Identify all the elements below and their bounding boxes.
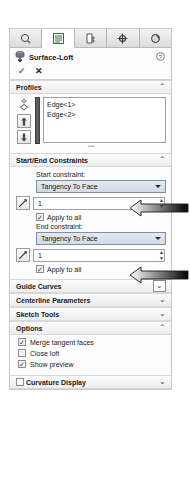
chevron-up-icon[interactable]: ⌃ [159,83,166,91]
start-tangent-direction-button[interactable] [16,196,30,210]
start-magnitude-stepper[interactable]: ▲ ▼ [157,197,166,209]
list-item[interactable]: Edge<1> [47,100,162,110]
section-header-sketch-tools[interactable]: Sketch Tools ⌄ [10,307,171,321]
tangent-direction-icon [18,250,28,260]
selection-indicator-bar [35,97,40,144]
manager-tab-strip [10,29,171,48]
start-apply-to-all-label: Apply to all [47,214,81,221]
section-title-start-end-constraints: Start/End Constraints [16,157,159,164]
option-row-merge-tangent-faces[interactable]: ✓ Merge tangent faces [18,338,166,346]
section-title-sketch-tools: Sketch Tools [16,311,159,318]
chevron-down-icon[interactable] [155,185,161,188]
show-preview-checkbox[interactable]: ✓ [18,360,26,368]
merge-tangent-faces-label: Merge tangent faces [30,339,94,346]
property-list-icon [53,33,64,44]
show-preview-label: Show preview [30,361,74,368]
profile-select-icon[interactable] [17,97,31,112]
chevron-up-icon[interactable]: ⌃ [159,324,166,332]
start-constraint-dropdown[interactable]: Tangency To Face [36,180,166,193]
page-title: Surface-Loft [29,53,156,62]
panel-action-row: ✓ ✕ [10,64,171,80]
end-magnitude-stepper[interactable]: ▲ ▼ [157,249,166,261]
display-manager-tab[interactable] [140,29,171,47]
chevron-down-icon[interactable]: ⌄ [159,310,166,318]
move-up-button[interactable] [17,114,31,128]
section-header-start-end-constraints[interactable]: Start/End Constraints ⌃ [10,153,171,167]
section-title-profiles: Profiles [16,84,159,91]
end-apply-to-all-label: Apply to all [47,266,81,273]
cancel-button[interactable]: ✕ [35,67,43,76]
configuration-manager-tab[interactable] [75,29,107,47]
section-title-options: Options [16,325,159,332]
tree-rollback-icon [20,33,31,44]
section-header-centerline-parameters[interactable]: Centerline Parameters ⌄ [10,293,171,307]
profile-tools [16,97,32,144]
section-header-profiles[interactable]: Profiles ⌃ [10,80,171,94]
chevron-down-icon[interactable]: ⌄ [159,378,166,386]
end-constraint-dropdown[interactable]: Tangency To Face [36,232,166,245]
display-sphere-icon [150,33,161,44]
arrow-down-icon [20,133,28,142]
arrow-up-icon [20,117,28,126]
merge-tangent-faces-checkbox[interactable]: ✓ [18,338,26,346]
feature-manager-tree-tab[interactable] [10,29,42,47]
surface-loft-icon [15,51,25,63]
accept-button[interactable]: ✓ [18,67,26,76]
dimxpert-manager-tab[interactable] [107,29,139,47]
stepper-down-icon[interactable]: ▼ [157,203,166,209]
section-title-curvature-display: Curvature Display [26,379,159,386]
end-constraint-value: Tangency To Face [41,235,155,242]
section-header-options[interactable]: Options ⌃ [10,321,171,335]
section-body-start-end-constraints: Start constraint: Tangency To Face 1 ▲ ▼… [10,167,171,279]
tangent-direction-icon [18,198,28,208]
stepper-down-icon[interactable]: ▼ [157,255,166,261]
curvature-display-checkbox[interactable] [16,378,24,386]
dimxpert-crosshair-icon [117,33,128,44]
end-constraint-label: End constraint: [36,223,166,230]
panel-title-row: Surface-Loft ? [10,48,171,64]
start-apply-to-all-checkbox[interactable]: ✓ [36,213,44,221]
end-tangent-direction-button[interactable] [16,248,30,262]
svg-text:?: ? [159,54,163,60]
end-apply-to-all-checkbox[interactable]: ✓ [36,265,44,273]
move-down-button[interactable] [17,130,31,144]
chevron-down-icon[interactable] [155,237,161,240]
end-constraint-callout-arrow [128,265,188,285]
list-item[interactable]: Edge<2> [47,110,162,120]
help-icon[interactable]: ? [156,52,165,62]
option-row-show-preview[interactable]: ✓ Show preview [18,360,166,368]
option-row-close-loft[interactable]: Close loft [18,349,166,357]
section-body-options: ✓ Merge tangent faces Close loft ✓ Show … [10,335,171,375]
property-manager-tab[interactable] [42,29,74,48]
chevron-down-icon[interactable]: ⌄ [159,296,166,304]
start-constraint-label: Start constraint: [36,171,166,178]
start-constraint-value: Tangency To Face [41,183,155,190]
section-header-curvature-display[interactable]: Curvature Display ⌄ [10,375,171,389]
profiles-list[interactable]: Edge<1> Edge<2> [43,97,166,143]
chevron-up-icon[interactable]: ⌃ [159,156,166,164]
close-loft-checkbox[interactable] [18,349,26,357]
end-tangent-magnitude-field[interactable]: 1 [33,249,165,262]
configuration-icon [85,33,96,44]
section-title-centerline-parameters: Centerline Parameters [16,297,159,304]
close-loft-label: Close loft [30,350,59,357]
section-body-profiles: Edge<1> Edge<2> ••• [10,94,171,153]
resize-grip[interactable]: ••• [16,144,166,149]
